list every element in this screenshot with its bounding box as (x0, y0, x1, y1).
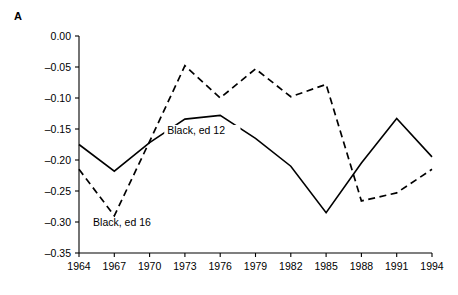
x-tick-label: 1973 (173, 260, 197, 272)
y-tick-label: –0.35 (45, 247, 71, 259)
x-tick-label: 1964 (67, 260, 91, 272)
y-axis: 0.00–0.05–0.10–0.15–0.20–0.25–0.30–0.35 (45, 30, 79, 259)
y-tick-label: –0.10 (45, 92, 71, 104)
line-chart: 0.00–0.05–0.10–0.15–0.20–0.25–0.30–0.35 … (0, 0, 458, 295)
y-tick-label: –0.15 (45, 123, 71, 135)
x-tick-label: 1988 (350, 260, 374, 272)
x-tick-label: 1991 (385, 260, 409, 272)
x-tick-label: 1970 (138, 260, 162, 272)
x-tick-label: 1976 (209, 260, 233, 272)
series-label-0: Black, ed 12 (167, 124, 225, 136)
x-tick-label: 1967 (103, 260, 127, 272)
series-line-0 (79, 115, 432, 212)
x-tick-label: 1979 (244, 260, 268, 272)
x-tick-label: 1994 (420, 260, 444, 272)
y-tick-label: –0.30 (45, 216, 71, 228)
series-annotations: Black, ed 12Black, ed 16 (90, 124, 240, 230)
x-axis: 1964196719701973197619791982198519881991… (67, 253, 444, 272)
chart-panel: A 0.00–0.05–0.10–0.15–0.20–0.25–0.30–0.3… (0, 0, 458, 295)
series-lines (79, 66, 432, 216)
y-tick-label: 0.00 (51, 30, 72, 42)
x-tick-label: 1982 (279, 260, 303, 272)
series-label-1: Black, ed 16 (93, 216, 151, 228)
y-tick-label: –0.25 (45, 185, 71, 197)
y-tick-label: –0.05 (45, 61, 71, 73)
x-tick-label: 1985 (314, 260, 338, 272)
y-tick-label: –0.20 (45, 154, 71, 166)
